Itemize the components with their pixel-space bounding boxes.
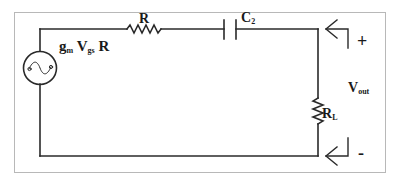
- plus-sign: +: [357, 31, 367, 51]
- resistor-r-label: R: [139, 11, 150, 26]
- circuit-diagram: gm Vgs R R C2 RL Vout + -: [0, 0, 396, 179]
- source-label-gs: gs: [88, 46, 95, 55]
- diagram-frame: [15, 13, 386, 173]
- vout-label-out: out: [358, 87, 369, 96]
- capacitor-label-c: C: [241, 10, 251, 25]
- sine-wave-icon: [29, 62, 51, 74]
- resistor-rl-label-l: L: [332, 113, 337, 122]
- source-label-v: V: [77, 38, 88, 54]
- resistor-r-icon: [127, 25, 161, 33]
- svg-text:gm Vgs R: gm Vgs R: [59, 38, 109, 55]
- svg-text:Vout: Vout: [348, 80, 370, 96]
- capacitor-label-2: 2: [251, 17, 255, 26]
- svg-text:RL: RL: [322, 106, 337, 122]
- minus-sign: -: [358, 143, 364, 163]
- source-label-r: R: [98, 38, 109, 54]
- vout-label-v: V: [348, 80, 358, 95]
